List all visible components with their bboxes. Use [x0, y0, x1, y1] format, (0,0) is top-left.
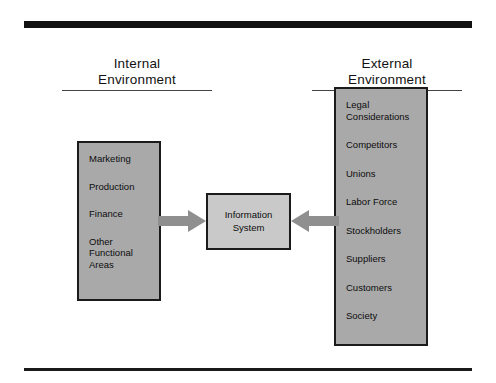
top-rule-divider: [24, 21, 472, 28]
list-item: Labor Force: [346, 196, 422, 208]
arrow-internal-to-system-icon: [158, 208, 208, 234]
list-item: Stockholders: [346, 225, 422, 237]
list-item: Production: [89, 181, 155, 193]
information-system-box: Information System: [206, 193, 291, 250]
list-item: Marketing: [89, 153, 155, 165]
information-system-label: Information System: [225, 209, 273, 234]
external-environment-heading-text: External Environment: [348, 56, 426, 87]
list-item: Other Functional Areas: [89, 236, 155, 271]
list-item: Finance: [89, 208, 155, 220]
internal-heading-underline: [62, 90, 212, 91]
external-items-list: Legal Considerations Competitors Unions …: [346, 99, 422, 339]
figure-canvas: Internal Environment External Environmen…: [0, 0, 496, 383]
internal-items-list: Marketing Production Finance Other Funct…: [89, 153, 155, 286]
internal-environment-box: Marketing Production Finance Other Funct…: [77, 141, 161, 301]
external-environment-box: Legal Considerations Competitors Unions …: [334, 87, 428, 346]
arrow-external-to-system-icon: [289, 208, 339, 234]
list-item: Unions: [346, 168, 422, 180]
list-item: Suppliers: [346, 253, 422, 265]
internal-environment-heading: Internal Environment: [62, 40, 212, 107]
list-item: Legal Considerations: [346, 99, 422, 122]
list-item: Competitors: [346, 139, 422, 151]
bottom-rule-divider: [24, 368, 472, 371]
internal-environment-heading-text: Internal Environment: [98, 56, 176, 87]
list-item: Society: [346, 310, 422, 322]
list-item: Customers: [346, 282, 422, 294]
